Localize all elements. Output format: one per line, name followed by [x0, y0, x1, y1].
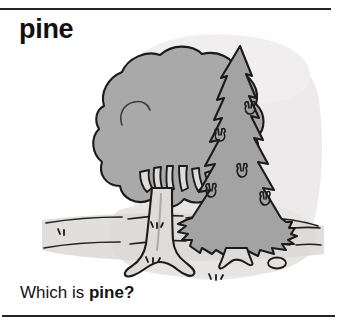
top-divider	[0, 8, 331, 10]
stone	[268, 258, 286, 269]
caption-target-word: pine	[89, 283, 124, 302]
caption: Which is pine?	[20, 283, 134, 303]
caption-question-mark: ?	[124, 283, 134, 302]
caption-prefix: Which is	[20, 283, 89, 302]
bottom-divider	[2, 315, 335, 317]
illustration	[0, 22, 338, 284]
dictionary-entry-page: pine	[0, 0, 338, 324]
